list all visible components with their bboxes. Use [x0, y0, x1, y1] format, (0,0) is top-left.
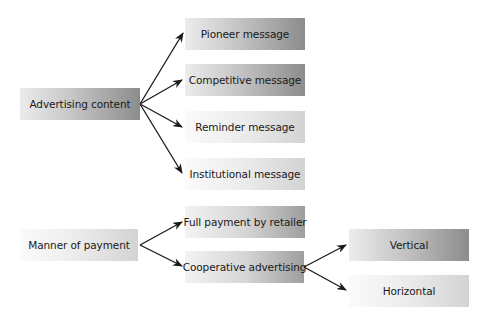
node-label: Full payment by retailer [184, 216, 307, 228]
arrow-to-pioneer [140, 33, 183, 104]
arrow-to-cooperative [140, 245, 182, 266]
arrow-to-full-payment [140, 222, 182, 245]
node-vertical: Vertical [349, 229, 469, 261]
node-label: Competitive message [189, 74, 301, 86]
node-label: Manner of payment [28, 239, 129, 251]
node-label: Reminder message [195, 121, 294, 133]
node-label: Horizontal [383, 285, 436, 297]
arrow-to-vertical [304, 245, 346, 267]
node-label: Pioneer message [201, 28, 289, 40]
diagram-canvas: Advertising content Pioneer message Comp… [0, 0, 492, 324]
node-manner-of-payment: Manner of payment [20, 229, 138, 261]
node-cooperative-advertising: Cooperative advertising [185, 251, 304, 283]
node-institutional-message: Institutional message [185, 158, 305, 190]
node-label: Vertical [390, 239, 429, 251]
arrow-to-institutional [140, 104, 182, 173]
arrow-to-reminder [140, 104, 182, 127]
node-competitive-message: Competitive message [185, 64, 305, 96]
node-reminder-message: Reminder message [185, 111, 305, 143]
node-label: Institutional message [190, 168, 301, 180]
node-advertising-content: Advertising content [20, 88, 140, 120]
arrow-to-horizontal [304, 267, 346, 290]
node-full-payment-by-retailer: Full payment by retailer [185, 206, 305, 238]
node-label: Advertising content [29, 98, 130, 110]
node-horizontal: Horizontal [349, 275, 469, 307]
node-pioneer-message: Pioneer message [185, 18, 305, 50]
node-label: Cooperative advertising [183, 261, 307, 273]
arrow-to-competitive [140, 80, 182, 104]
